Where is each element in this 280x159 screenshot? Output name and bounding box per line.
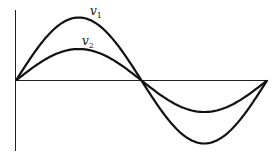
sine-diagram: v1 v2 [0, 0, 280, 159]
v1-label: v1 [90, 4, 102, 20]
v2-label: v2 [82, 34, 94, 50]
